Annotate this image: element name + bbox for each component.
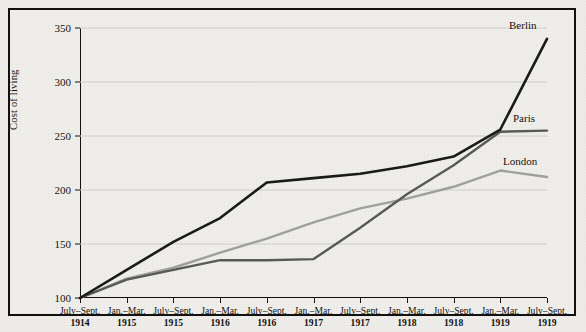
x-tick-year: 1916 [247,317,287,329]
series-label-london: London [503,155,537,167]
y-tick-label: 200 [55,184,72,196]
y-tick-label: 350 [55,22,72,34]
x-tick-year: 1918 [433,317,473,329]
plot-canvas: 100150200250300350July–Sept.1914Jan.–Mar… [80,28,547,298]
x-tick-year: 1916 [201,317,239,329]
x-tick-mark [314,298,315,303]
x-tick-mark [220,298,221,303]
x-tick-mark [267,298,268,303]
series-label-paris: Paris [513,112,535,124]
x-tick-label: Jan.–Mar.1915 [108,305,146,328]
x-tick-year: 1915 [108,317,146,329]
x-tick-label: Jan.–Mar.1917 [295,305,333,328]
x-tick-mark [547,298,548,303]
chart-frame: Cost of living 100150200250300350July–Se… [8,8,576,316]
x-tick-label: July–Sept.1916 [247,305,287,328]
series-lines [80,28,547,298]
x-tick-label: Jan.–Mar.1916 [201,305,239,328]
x-tick-period: July–Sept. [60,305,100,317]
x-tick-year: 1917 [340,317,380,329]
y-tick-label: 250 [55,130,72,142]
x-tick-mark [360,298,361,303]
x-tick-label: July–Sept.1917 [340,305,380,328]
x-tick-period: Jan.–Mar. [295,305,333,317]
x-tick-mark [454,298,455,303]
x-tick-mark [173,298,174,303]
x-tick-period: Jan.–Mar. [201,305,239,317]
y-tick-label: 100 [55,292,72,304]
x-tick-period: July–Sept. [433,305,473,317]
x-tick-mark [500,298,501,303]
x-tick-period: Jan.–Mar. [108,305,146,317]
x-tick-period: July–Sept. [247,305,287,317]
x-tick-period: Jan.–Mar. [388,305,426,317]
x-tick-year: 1914 [60,317,100,329]
x-tick-period: July–Sept. [527,305,567,317]
series-line-london [80,171,547,298]
x-tick-label: Jan.–Mar.1919 [481,305,519,328]
x-tick-year: 1917 [295,317,333,329]
x-tick-year: 1918 [388,317,426,329]
chart-figure: Cost of living 100150200250300350July–Se… [0,0,586,332]
plot-area: 100150200250300350July–Sept.1914Jan.–Mar… [80,28,547,298]
x-tick-period: July–Sept. [340,305,380,317]
x-tick-label: Jan.–Mar.1918 [388,305,426,328]
y-axis-title: Cost of living [8,20,19,130]
x-tick-label: July–Sept.1914 [60,305,100,328]
x-tick-period: July–Sept. [153,305,193,317]
series-label-berlin: Berlin [509,19,537,31]
x-tick-year: 1915 [153,317,193,329]
x-tick-period: Jan.–Mar. [481,305,519,317]
x-tick-label: July–Sept.1918 [433,305,473,328]
x-tick-mark [127,298,128,303]
x-tick-mark [407,298,408,303]
x-tick-label: July–Sept.1919 [527,305,567,328]
x-tick-year: 1919 [481,317,519,329]
y-tick-label: 300 [55,76,72,88]
x-tick-year: 1919 [527,317,567,329]
y-tick-label: 150 [55,238,72,250]
x-tick-label: July–Sept.1915 [153,305,193,328]
